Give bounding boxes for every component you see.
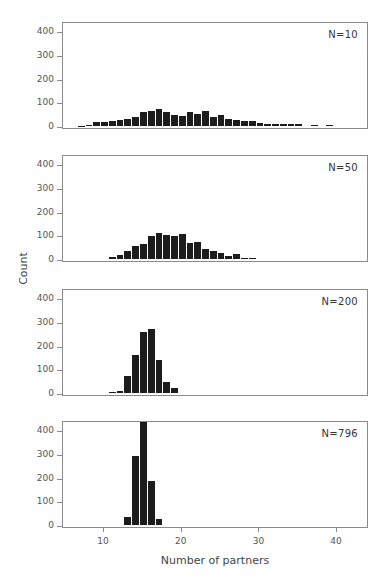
y-tick-mark xyxy=(57,236,62,237)
histogram-bar xyxy=(147,236,155,259)
y-tick-label: 100 xyxy=(20,97,54,107)
panel-n10: N=10 xyxy=(62,22,368,129)
histogram-bar xyxy=(131,117,139,126)
y-tick-mark xyxy=(57,260,62,261)
y-tick-label: 300 xyxy=(20,317,54,327)
panel-n200: N=200 xyxy=(62,289,368,396)
histogram-bar xyxy=(170,236,178,259)
y-tick-mark xyxy=(57,103,62,104)
histogram-bar xyxy=(224,256,232,259)
histogram-bar xyxy=(209,251,217,259)
y-tick-mark xyxy=(57,127,62,128)
histogram-bar xyxy=(162,112,170,126)
histogram-bar xyxy=(232,120,240,126)
y-tick-label: 300 xyxy=(20,183,54,193)
panel-label: N=796 xyxy=(322,428,358,439)
y-tick-label: 400 xyxy=(20,293,54,303)
histogram-bar xyxy=(139,421,147,525)
histogram-bar xyxy=(294,124,302,126)
histogram-bar xyxy=(162,235,170,259)
y-tick-mark xyxy=(57,370,62,371)
y-tick-mark xyxy=(57,526,62,527)
histogram-bar xyxy=(131,355,139,393)
y-tick-mark xyxy=(57,165,62,166)
y-tick-label: 400 xyxy=(20,425,54,435)
histogram-bar xyxy=(186,112,194,126)
histogram-bar xyxy=(155,233,163,259)
x-tick-mark xyxy=(103,528,104,532)
x-tick-label: 40 xyxy=(321,536,351,546)
y-tick-label: 400 xyxy=(20,159,54,169)
histogram-bar xyxy=(155,519,163,525)
histogram-bar xyxy=(116,120,124,126)
panel-n50: N=50 xyxy=(62,155,368,262)
histogram-bar xyxy=(123,517,131,525)
y-tick-mark xyxy=(57,394,62,395)
histogram-bar xyxy=(271,124,279,126)
histogram-bar xyxy=(201,111,209,126)
histogram-bar xyxy=(232,254,240,259)
histogram-bar xyxy=(279,124,287,126)
histogram-bar xyxy=(240,258,248,259)
y-tick-label: 200 xyxy=(20,473,54,483)
histogram-bar xyxy=(123,119,131,126)
histogram-bar xyxy=(170,115,178,126)
y-tick-mark xyxy=(57,56,62,57)
histogram-bar xyxy=(155,109,163,126)
histogram-bar xyxy=(147,329,155,393)
histogram-bar xyxy=(139,112,147,126)
histogram-bar xyxy=(147,111,155,126)
panel-label: N=50 xyxy=(328,162,358,173)
y-tick-label: 100 xyxy=(20,496,54,506)
y-tick-mark xyxy=(57,479,62,480)
histogram-bar xyxy=(170,388,178,393)
histogram-bar xyxy=(162,382,170,393)
y-tick-label: 300 xyxy=(20,50,54,60)
x-tick-label: 30 xyxy=(243,536,273,546)
histogram-bar xyxy=(139,244,147,259)
histogram-bar xyxy=(178,116,186,126)
y-tick-label: 100 xyxy=(20,230,54,240)
histogram-bar xyxy=(325,125,333,126)
y-tick-mark xyxy=(57,502,62,503)
histogram-bar xyxy=(92,122,100,126)
y-tick-label: 0 xyxy=(20,520,54,530)
histogram-bar xyxy=(217,253,225,259)
histogram-bar xyxy=(263,124,271,126)
histogram-bar xyxy=(201,249,209,259)
y-tick-label: 200 xyxy=(20,74,54,84)
x-tick-mark xyxy=(336,528,337,532)
x-tick-mark xyxy=(181,528,182,532)
y-axis-label: Count xyxy=(17,244,30,294)
histogram-bar xyxy=(108,257,116,259)
histogram-bar xyxy=(217,115,225,126)
histogram-bar xyxy=(123,251,131,259)
histogram-bar xyxy=(193,242,201,259)
y-tick-label: 200 xyxy=(20,341,54,351)
histogram-bar xyxy=(139,332,147,393)
y-tick-mark xyxy=(57,299,62,300)
histogram-bar xyxy=(108,392,116,393)
histogram-bar xyxy=(193,114,201,126)
x-axis-label: Number of partners xyxy=(0,554,387,567)
y-tick-label: 100 xyxy=(20,364,54,374)
panel-label: N=10 xyxy=(328,29,358,40)
y-tick-mark xyxy=(57,323,62,324)
y-tick-mark xyxy=(57,431,62,432)
y-tick-label: 0 xyxy=(20,388,54,398)
histogram-bar xyxy=(256,123,264,126)
y-tick-label: 0 xyxy=(20,121,54,131)
panel-label: N=200 xyxy=(322,296,358,307)
histogram-bar xyxy=(240,121,248,126)
histogram-bar xyxy=(248,121,256,126)
histogram-bar xyxy=(116,391,124,393)
histogram-bar xyxy=(310,125,318,126)
panel-n796: N=796 xyxy=(62,421,368,528)
histogram-bar xyxy=(116,255,124,259)
y-tick-mark xyxy=(57,347,62,348)
y-tick-label: 200 xyxy=(20,207,54,217)
histogram-bar xyxy=(131,246,139,259)
histogram-bar xyxy=(147,481,155,525)
y-tick-mark xyxy=(57,189,62,190)
histogram-bar xyxy=(85,125,93,126)
